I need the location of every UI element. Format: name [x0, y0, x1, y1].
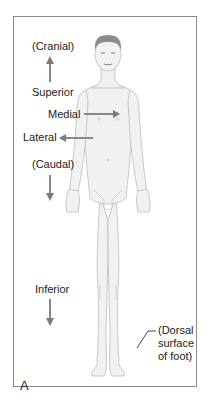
medial-arrow-icon — [84, 110, 120, 118]
lateral-arrow-icon — [59, 134, 93, 142]
dorsal-leader-line — [137, 331, 156, 348]
direction-arrows — [0, 0, 216, 407]
caudal-arrow-icon — [46, 175, 54, 201]
superior-arrow-icon — [46, 56, 54, 82]
inferior-arrow-icon — [46, 299, 54, 326]
